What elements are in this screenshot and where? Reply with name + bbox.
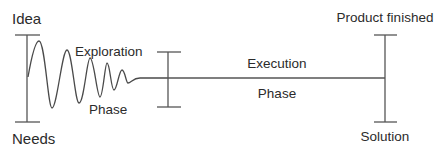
label-execution: Execution xyxy=(247,56,306,71)
label-idea: Idea xyxy=(12,10,42,27)
label-solution: Solution xyxy=(361,129,410,144)
label-exploration-phase: Phase xyxy=(89,102,127,117)
exploration-execution-diagram: Idea Needs Exploration Phase Execution P… xyxy=(0,0,446,147)
label-product-finished: Product finished xyxy=(337,10,434,25)
phase-boundary-marker xyxy=(157,52,181,107)
label-execution-phase: Phase xyxy=(258,86,296,101)
label-needs: Needs xyxy=(12,130,55,147)
label-exploration: Exploration xyxy=(75,44,143,59)
start-marker xyxy=(15,35,40,122)
